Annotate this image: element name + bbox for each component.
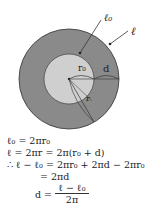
equation-fraction: ℓ − ℓ₀ 2π [55, 182, 89, 205]
equation-line-4: = 2πd [40, 171, 69, 182]
fraction-numerator: ℓ − ℓ₀ [55, 182, 89, 193]
label-l: ℓ [131, 26, 136, 37]
equation-line-1: ℓ₀ = 2πr₀ [7, 135, 50, 146]
l0-point [79, 52, 82, 55]
fraction-denominator: 2π [55, 194, 89, 205]
l-point [109, 43, 112, 46]
concentric-circles-diagram [0, 0, 145, 140]
label-r0: r₀ [78, 63, 86, 74]
label-l0: ℓ₀ [104, 12, 112, 23]
l-leader-line [110, 31, 128, 44]
equation-line-3: ∴ ℓ − ℓ₀ = 2πr₀ + 2πd − 2πr₀ [7, 159, 145, 170]
label-d: d [103, 63, 109, 74]
equation-line-2: ℓ = 2πr = 2π(r₀ + d) [7, 147, 105, 158]
label-r: r [86, 93, 90, 104]
equation-line-5-lhs: d = [35, 189, 52, 200]
